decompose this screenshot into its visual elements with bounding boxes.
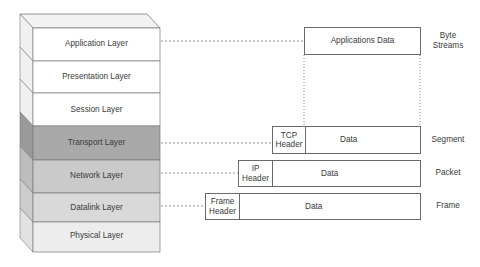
- layer-label-physical: Physical Layer: [33, 231, 160, 241]
- packet-data-cell: Data: [273, 161, 420, 186]
- frame-header-cell: Frame Header: [206, 194, 240, 219]
- unit-label-byte-streams: Byte Streams: [428, 31, 468, 51]
- layer-label-network: Network Layer: [33, 171, 160, 181]
- applications-data-box: Applications Data: [304, 27, 421, 55]
- osi-encapsulation-diagram: Application Layer Presentation Layer Ses…: [0, 0, 480, 267]
- layer-label-transport: Transport Layer: [33, 138, 160, 148]
- applications-data-label: Applications Data: [331, 36, 395, 46]
- unit-label-packet: Packet: [426, 168, 470, 178]
- layer-label-datalink: Datalink Layer: [33, 203, 160, 213]
- ip-header-cell: IP Header: [239, 161, 273, 186]
- segment-box: TCP Header Data: [272, 126, 421, 154]
- layer-label-application: Application Layer: [33, 39, 160, 49]
- unit-label-frame: Frame: [426, 201, 470, 211]
- frame-data-cell: Data: [240, 194, 420, 219]
- layer-label-session: Session Layer: [33, 105, 160, 115]
- stack-top-face: [20, 14, 160, 28]
- layer-label-presentation: Presentation Layer: [33, 72, 160, 82]
- frame-box: Frame Header Data: [205, 193, 421, 220]
- unit-label-segment: Segment: [426, 135, 470, 145]
- packet-box: IP Header Data: [238, 160, 421, 187]
- tcp-header-cell: TCP Header: [273, 127, 306, 153]
- segment-data-cell: Data: [306, 127, 420, 153]
